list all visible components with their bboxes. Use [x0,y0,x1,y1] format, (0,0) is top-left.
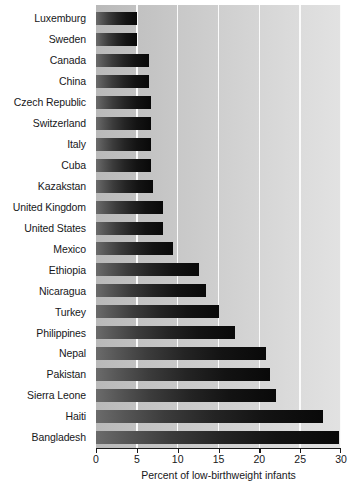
category-label: Sierra Leone [0,385,91,406]
bar-row [96,280,341,301]
bar-row [96,343,341,364]
category-label: Sweden [0,29,91,50]
category-label: Luxemburg [0,8,91,29]
bar [96,389,276,402]
category-label: Mexico [0,238,91,259]
bar-row [96,364,341,385]
bar [96,347,266,360]
bar [96,12,137,25]
bar-row [96,385,341,406]
bar-row [96,155,341,176]
x-axis: Percent of low-birthweight infants 05101… [96,448,341,487]
bar-row [96,176,341,197]
category-label: Kazakstan [0,176,91,197]
bar-row [96,259,341,280]
x-axis-tick-label: 0 [93,454,99,466]
bar-row [96,218,341,239]
bar [96,368,270,381]
x-axis-tick-label: 10 [172,454,184,466]
category-label: Ethiopia [0,259,91,280]
bar-series [96,8,341,448]
bar [96,431,339,444]
bar [96,305,219,318]
bar-row [96,71,341,92]
bar [96,96,151,109]
category-label: Czech Republic [0,92,91,113]
category-label: Haiti [0,406,91,427]
bar-chart: LuxemburgSwedenCanadaChinaCzech Republic… [0,0,355,487]
x-axis-tick-label: 30 [335,454,347,466]
bar-row [96,92,341,113]
bar [96,75,149,88]
bar [96,54,149,67]
category-label: Cuba [0,155,91,176]
x-axis-tick-label: 20 [253,454,265,466]
category-label: Switzerland [0,113,91,134]
category-label-column: LuxemburgSwedenCanadaChinaCzech Republic… [0,8,91,448]
x-axis-title: Percent of low-birthweight infants [96,469,341,481]
bar-row [96,427,341,448]
bar [96,138,151,151]
category-label: Turkey [0,301,91,322]
x-axis-tick-label: 5 [134,454,140,466]
bar-row [96,406,341,427]
category-label: China [0,71,91,92]
bar [96,33,137,46]
bar-row [96,29,341,50]
category-label: Bangladesh [0,427,91,448]
category-label: Nepal [0,343,91,364]
plot-area [96,5,341,448]
bar [96,326,235,339]
category-label: Canada [0,50,91,71]
bar-row [96,113,341,134]
bar [96,159,151,172]
category-label: United Kingdom [0,197,91,218]
bar-row [96,238,341,259]
bar [96,201,163,214]
category-label: United States [0,218,91,239]
category-label: Nicaragua [0,280,91,301]
category-label: Pakistan [0,364,91,385]
bar [96,410,323,423]
category-label: Philippines [0,322,91,343]
bar-row [96,301,341,322]
category-label: Italy [0,134,91,155]
bar-row [96,322,341,343]
bar [96,284,206,297]
bar-row [96,134,341,155]
x-axis-tick-label: 15 [213,454,225,466]
bar [96,242,173,255]
bar-row [96,197,341,218]
bar [96,180,153,193]
bar [96,222,163,235]
bar-row [96,8,341,29]
bar [96,117,151,130]
bar [96,263,199,276]
bar-row [96,50,341,71]
x-axis-tick-label: 25 [294,454,306,466]
